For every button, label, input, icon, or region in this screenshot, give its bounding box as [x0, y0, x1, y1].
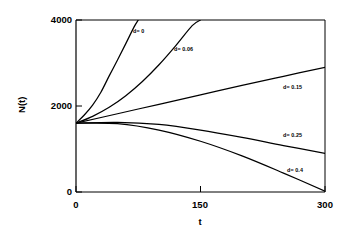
x-axis-title: t: [180, 217, 220, 227]
curve-0-15: [76, 67, 325, 123]
chart-figure: 4000 2000 0 0 150 300 N(t) t d= 0 d= 0.0…: [0, 0, 343, 235]
x-tick-label-0: 0: [56, 200, 96, 210]
curve-label-d-0-4: d= 0.4: [287, 168, 303, 173]
y-tick-label-4000: 4000: [30, 15, 72, 25]
curve-label-d-0-06: d= 0.06: [174, 47, 193, 52]
curve-label-d-0: d= 0: [133, 29, 144, 34]
curve-label-d-0-25: d= 0.25: [283, 133, 302, 138]
x-tick-label-300: 300: [305, 200, 343, 210]
y-axis-title: N(t): [17, 82, 27, 128]
plot-area: [0, 0, 343, 235]
curve-label-d-0-15: d= 0.15: [283, 85, 302, 90]
curve-0-06: [76, 20, 201, 123]
x-tick-label-150: 150: [180, 200, 220, 210]
y-tick-label-2000: 2000: [30, 101, 72, 111]
y-tick-label-0: 0: [30, 187, 72, 197]
curve-0: [76, 20, 138, 123]
data-curves: [76, 20, 325, 191]
